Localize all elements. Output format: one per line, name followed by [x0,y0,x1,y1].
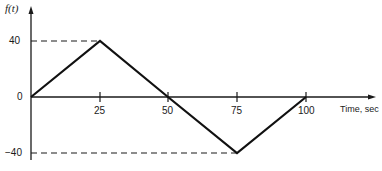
x-tick-50: 50 [162,105,173,116]
y-tick-40: 40 [9,35,20,46]
x-axis-label: Time, sec [340,104,379,114]
x-tick-25: 25 [94,105,105,116]
x-tick-100: 100 [298,105,315,116]
x-axis-arrow-icon [368,95,376,100]
x-tick-75: 75 [231,105,242,116]
y-tick-neg40: −40 [5,147,22,158]
y-tick-0: 0 [17,91,23,102]
plot-area [0,0,382,171]
y-axis-label: f(t) [5,2,18,14]
triangle-wave-chart: f(t) 40 0 −40 25 50 75 100 Time, sec [0,0,382,171]
y-axis-arrow-icon [29,6,34,14]
